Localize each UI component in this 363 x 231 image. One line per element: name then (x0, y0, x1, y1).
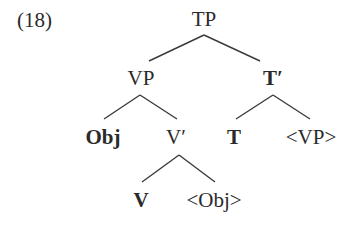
node-vp-trace: <VP> (286, 125, 337, 149)
branch-tp-tbar (204, 35, 260, 61)
branch-tp-vp (149, 35, 204, 61)
branch-vp-vbar (140, 95, 177, 119)
node-t: T (227, 125, 241, 149)
branch-vbar-objtrace (179, 155, 215, 182)
node-tp: TP (192, 7, 217, 31)
branch-tbar-t (236, 95, 273, 119)
branch-tbar-vptrace (273, 95, 310, 119)
node-vp: VP (128, 66, 155, 90)
node-obj-trace: <Obj> (186, 188, 241, 212)
node-v: V (133, 188, 148, 212)
node-v-bar: V′ (166, 125, 186, 149)
branch-vbar-v (142, 155, 179, 182)
branch-vp-obj (104, 95, 140, 119)
node-obj: Obj (85, 125, 120, 149)
tree-branches (0, 0, 363, 231)
node-t-bar: T′ (263, 66, 283, 90)
